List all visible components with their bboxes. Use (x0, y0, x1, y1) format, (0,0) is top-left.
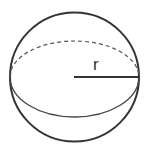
sphere-diagram: r (0, 0, 146, 153)
equator-front (10, 77, 139, 117)
radius-label: r (93, 55, 99, 74)
equator-back-dashed (10, 41, 139, 77)
